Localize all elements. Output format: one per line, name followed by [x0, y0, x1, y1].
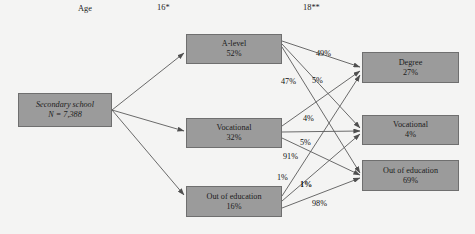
node-secondary-school[interactable]: Secondary schoolN = 7,388 [18, 93, 112, 127]
node-vocational-18[interactable]: Vocational4% [362, 115, 459, 145]
edge-out-to-vocational [282, 134, 360, 201]
edge-label-out-to-vocational: 1% [300, 180, 312, 189]
edge-label-out-to-degree: 1% [277, 173, 288, 182]
node-title: Out of education [383, 166, 438, 176]
node-value: N = 7,388 [48, 110, 82, 120]
edge-label-vocational-to-out: 91% [283, 152, 298, 161]
node-degree-18[interactable]: Degree27% [362, 52, 459, 83]
node-title: Secondary school [36, 100, 94, 110]
node-title: A-level [222, 39, 247, 49]
node-out-of-education-16[interactable]: Out of education16% [186, 186, 282, 217]
edge-label-a-level-to-degree: 49% [316, 49, 331, 58]
node-value: 69% [403, 176, 418, 186]
node-title: Degree [399, 58, 423, 68]
node-title: Vocational [393, 120, 428, 130]
edge-vocational-to-vocational [282, 131, 360, 132]
stage-label-age-18: 18** [303, 3, 320, 12]
edge-secondary-to-out [112, 110, 184, 195]
node-value: 4% [405, 130, 416, 140]
node-out-of-education-18[interactable]: Out of education69% [362, 160, 459, 191]
stage-label-age: Age [78, 4, 92, 13]
edge-label-vocational-to-degree: 4% [303, 114, 314, 123]
edge-label-a-level-to-vocational: 47% [281, 77, 296, 86]
stage-label-age-16: 16* [157, 3, 170, 12]
node-value: 27% [403, 68, 418, 78]
edge-label-a-level-to-out: 5% [312, 76, 323, 85]
edge-secondary-to-a-level [112, 53, 184, 110]
edge-label-vocational-to-vocational: 5% [300, 138, 311, 147]
node-value: 16% [226, 202, 241, 212]
edge-out-to-degree [282, 75, 360, 196]
flow-diagram: Age16*18** Secondary schoolN = 7,388A-le… [0, 0, 475, 234]
node-a-level-16[interactable]: A-level52% [186, 34, 282, 64]
node-title: Vocational [217, 123, 252, 133]
node-title: Out of education [206, 192, 261, 202]
edge-label-out-to-out: 98% [312, 199, 327, 208]
edge-secondary-to-vocational [112, 110, 184, 131]
node-vocational-16[interactable]: Vocational32% [186, 118, 282, 148]
node-value: 32% [226, 133, 241, 143]
node-value: 52% [226, 49, 241, 59]
